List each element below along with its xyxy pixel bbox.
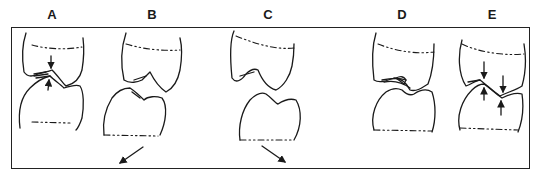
lower-tooth-d	[373, 89, 435, 132]
upper-tooth-b	[122, 33, 182, 92]
upper-tooth-e	[459, 40, 525, 96]
arrow-up-icon	[48, 80, 49, 90]
panel-a-drawing	[19, 33, 83, 130]
teeth-diagram	[0, 0, 539, 175]
lower-tooth-b	[103, 88, 165, 135]
upper-tooth-d	[373, 33, 434, 91]
lower-tooth-c	[239, 93, 300, 140]
panel-b-drawing	[103, 33, 181, 163]
panel-d-drawing	[373, 33, 435, 132]
arrow-down-left-icon	[120, 147, 143, 163]
upper-tooth-c	[231, 31, 294, 90]
panel-c-drawing	[231, 31, 301, 162]
lower-tooth-e	[459, 84, 523, 132]
panel-e-drawing	[459, 40, 526, 132]
arrow-down-right-icon	[262, 146, 285, 162]
lower-tooth-a	[19, 76, 83, 130]
